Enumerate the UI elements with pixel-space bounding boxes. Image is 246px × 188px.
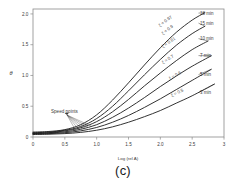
series-inline-label: ξ = 0.6 <box>168 70 182 81</box>
figure-caption: (c) <box>0 163 246 178</box>
curve-group <box>33 13 214 135</box>
x-axis-ticks: 00.51.01.52.02.53 <box>32 137 226 147</box>
speed-points-label: Speed points <box>51 109 79 114</box>
plot-frame <box>33 9 224 137</box>
y-axis-ticks: 00.51.01.52.0 <box>22 12 33 140</box>
y-tick-label: 0.5 <box>22 104 29 109</box>
x-tick-label: 0 <box>32 142 35 147</box>
x-tick-label: 1.5 <box>125 142 132 147</box>
x-tick-label: 1.0 <box>93 142 100 147</box>
y-tick-label: 2.0 <box>22 12 29 17</box>
x-tick-label: 0.5 <box>62 142 69 147</box>
line-chart: 00.51.01.52.02.53 00.51.01.52.0 18 min15… <box>0 0 246 188</box>
curve-15-min <box>33 26 205 132</box>
y-tick-label: 1.0 <box>22 73 29 78</box>
series-inline-label: ξ = 0.5 <box>170 87 184 98</box>
x-tick-label: 2.5 <box>189 142 196 147</box>
series-end-label: 15 min <box>200 21 214 26</box>
series-end-label: 18 min <box>200 11 214 16</box>
series-end-label: 5 min <box>200 72 212 77</box>
x-tick-label: 2.0 <box>157 142 164 147</box>
y-axis-title: θ <box>9 70 12 76</box>
y-tick-label: 0 <box>26 135 29 140</box>
figure-panel-c: 00.51.01.52.02.53 00.51.01.52.0 18 min15… <box>0 0 246 188</box>
x-tick-label: 3 <box>223 142 226 147</box>
series-end-labels: 18 min15 min10 min7 min5 min3 min <box>199 11 215 96</box>
series-end-label: 3 min <box>200 90 212 95</box>
y-tick-label: 1.5 <box>22 42 29 47</box>
series-end-label: 10 min <box>200 36 214 41</box>
curve-7-min <box>33 56 211 134</box>
x-axis-title: Log (rel A) <box>118 156 139 161</box>
series-end-label: 7 min <box>200 53 212 58</box>
